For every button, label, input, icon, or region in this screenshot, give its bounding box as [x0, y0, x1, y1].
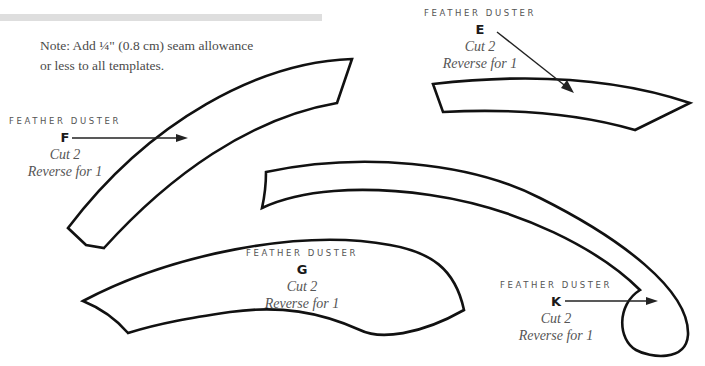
label-piece-g: FEATHER DUSTER G Cut 2 Reverse for 1 [232, 248, 372, 312]
arrowhead-f-icon [176, 134, 188, 142]
arrowhead-k-icon [646, 297, 658, 305]
piece-e-reverse: Reverse for 1 [410, 55, 550, 72]
piece-g-title: FEATHER DUSTER [232, 248, 372, 258]
template-piece-e [433, 78, 690, 130]
piece-f-title: FEATHER DUSTER [0, 116, 130, 126]
label-piece-e: FEATHER DUSTER E Cut 2 Reverse for 1 [410, 8, 550, 72]
piece-f-reverse: Reverse for 1 [0, 163, 130, 180]
piece-f-letter: F [0, 130, 130, 146]
piece-e-title: FEATHER DUSTER [410, 8, 550, 18]
piece-k-title: FEATHER DUSTER [486, 280, 626, 290]
piece-e-letter: E [410, 22, 550, 38]
label-piece-k: FEATHER DUSTER K Cut 2 Reverse for 1 [486, 280, 626, 344]
label-piece-f: FEATHER DUSTER F Cut 2 Reverse for 1 [0, 116, 130, 180]
piece-k-reverse: Reverse for 1 [486, 327, 626, 344]
piece-k-letter: K [486, 294, 626, 310]
piece-g-letter: G [232, 262, 372, 278]
arrowhead-e-icon [561, 80, 574, 93]
piece-k-cut: Cut 2 [486, 310, 626, 327]
piece-e-cut: Cut 2 [410, 38, 550, 55]
piece-g-cut: Cut 2 [232, 278, 372, 295]
piece-f-cut: Cut 2 [0, 146, 130, 163]
piece-g-reverse: Reverse for 1 [232, 295, 372, 312]
